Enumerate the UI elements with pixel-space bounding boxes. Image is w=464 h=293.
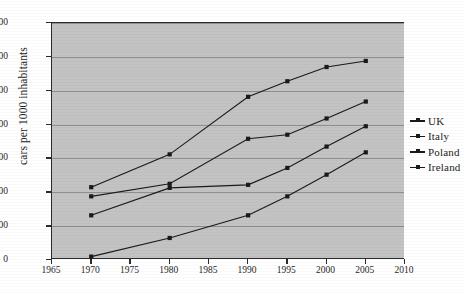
data-point-marker bbox=[168, 152, 172, 156]
series-ireland bbox=[89, 150, 368, 258]
data-point-marker bbox=[168, 182, 172, 186]
data-point-marker bbox=[364, 59, 368, 63]
x-axis-tick-mark bbox=[247, 259, 248, 264]
data-point-marker bbox=[246, 95, 250, 99]
series-italy bbox=[89, 99, 368, 198]
chart-legend: UKItalyPolandIreland bbox=[409, 113, 464, 175]
y-axis-tick-label: 100 bbox=[0, 220, 8, 230]
legend-item-uk[interactable]: UK bbox=[409, 113, 464, 129]
data-point-marker bbox=[285, 194, 289, 198]
x-axis-tick-mark bbox=[51, 259, 52, 264]
chart-figure: cars per 1000 inhabitants 01002003004005… bbox=[0, 0, 464, 293]
x-axis-tick-mark bbox=[208, 259, 209, 264]
legend-item-ireland[interactable]: Ireland bbox=[409, 160, 464, 176]
y-axis-tick-label: 300 bbox=[0, 152, 8, 162]
x-axis-tick-label: 1995 bbox=[266, 265, 306, 275]
x-axis-tick-label: 2000 bbox=[306, 265, 346, 275]
x-axis-tick-label: 1980 bbox=[149, 265, 189, 275]
data-point-marker bbox=[89, 213, 93, 217]
data-point-marker bbox=[285, 133, 289, 137]
x-axis-tick-label: 1990 bbox=[227, 265, 267, 275]
legend-marker-icon bbox=[409, 146, 426, 157]
series-line bbox=[91, 102, 366, 197]
data-series-layer bbox=[52, 23, 405, 260]
data-point-marker bbox=[324, 116, 328, 120]
data-point-marker bbox=[285, 79, 289, 83]
legend-item-label: UK bbox=[426, 115, 444, 127]
y-axis-tick-label: 200 bbox=[0, 186, 8, 196]
x-axis-tick-label: 2010 bbox=[384, 265, 424, 275]
series-uk bbox=[89, 59, 368, 189]
x-axis-tick-mark bbox=[129, 259, 130, 264]
x-axis-tick-mark bbox=[404, 259, 405, 264]
data-point-marker bbox=[89, 194, 93, 198]
y-axis-tick-label: 500 bbox=[0, 85, 8, 95]
legend-item-label: Poland bbox=[426, 146, 460, 158]
data-point-marker bbox=[89, 185, 93, 189]
legend-item-label: Italy bbox=[426, 130, 449, 142]
y-axis-tick-label: 0 bbox=[0, 254, 8, 264]
x-axis-tick-mark bbox=[326, 259, 327, 264]
data-point-marker bbox=[168, 236, 172, 240]
series-line bbox=[91, 152, 366, 256]
y-axis-tick-label: 700 bbox=[0, 17, 8, 27]
x-axis-tick-label: 1970 bbox=[70, 265, 110, 275]
x-axis-tick-mark bbox=[365, 259, 366, 264]
x-axis-tick-label: 1975 bbox=[109, 265, 149, 275]
x-axis-tick-mark bbox=[286, 259, 287, 264]
series-line bbox=[91, 61, 366, 187]
legend-marker-icon bbox=[409, 131, 426, 142]
y-axis-tick-label: 400 bbox=[0, 119, 8, 129]
data-point-marker bbox=[324, 173, 328, 177]
x-axis-tick-label: 1965 bbox=[31, 265, 71, 275]
legend-marker-icon bbox=[409, 162, 426, 173]
legend-item-italy[interactable]: Italy bbox=[409, 129, 464, 145]
data-point-marker bbox=[246, 183, 250, 187]
plot-area bbox=[51, 22, 404, 259]
y-axis-title: cars per 1000 inhabitants bbox=[17, 21, 29, 191]
data-point-marker bbox=[364, 99, 368, 103]
legend-item-poland[interactable]: Poland bbox=[409, 144, 464, 160]
y-axis-tick-label: 600 bbox=[0, 51, 8, 61]
legend-marker-icon bbox=[409, 115, 426, 126]
x-axis-tick-mark bbox=[90, 259, 91, 264]
data-point-marker bbox=[168, 186, 172, 190]
data-point-marker bbox=[246, 213, 250, 217]
x-axis-tick-label: 2005 bbox=[345, 265, 385, 275]
data-point-marker bbox=[364, 150, 368, 154]
series-line bbox=[91, 126, 366, 215]
x-axis-tick-mark bbox=[169, 259, 170, 264]
data-point-marker bbox=[364, 124, 368, 128]
data-point-marker bbox=[324, 65, 328, 69]
x-axis-tick-label: 1985 bbox=[188, 265, 228, 275]
data-point-marker bbox=[285, 166, 289, 170]
data-point-marker bbox=[246, 137, 250, 141]
legend-item-label: Ireland bbox=[426, 161, 461, 173]
data-point-marker bbox=[324, 144, 328, 148]
